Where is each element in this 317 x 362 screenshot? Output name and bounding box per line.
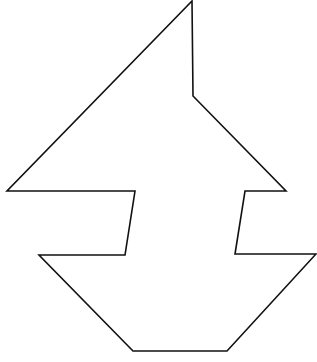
- diagram-canvas: Tangram-style sailboat silhouette outlin…: [0, 0, 317, 362]
- sailboat-silhouette: [0, 0, 317, 362]
- silhouette-outline: [7, 1, 316, 351]
